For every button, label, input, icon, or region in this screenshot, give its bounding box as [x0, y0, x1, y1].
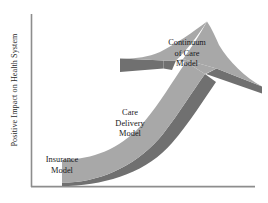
- diagram-canvas: Positive Impact on Health System Continu…: [0, 0, 268, 203]
- label-care-delivery-model: Care Delivery Model: [100, 108, 160, 140]
- y-axis-label-container: Positive Impact on Health System: [0, 0, 30, 190]
- y-axis-label: Positive Impact on Health System: [10, 5, 20, 175]
- label-insurance-model: Insurance Model: [32, 155, 92, 176]
- label-continuum-of-care-model: Continuum of Care Model: [156, 38, 218, 70]
